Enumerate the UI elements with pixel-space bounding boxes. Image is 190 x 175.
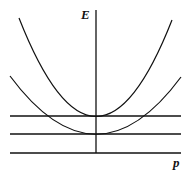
energy-axis-label: E xyxy=(81,8,90,21)
momentum-axis-label: p xyxy=(173,156,180,169)
energy-momentum-diagram xyxy=(0,0,190,175)
